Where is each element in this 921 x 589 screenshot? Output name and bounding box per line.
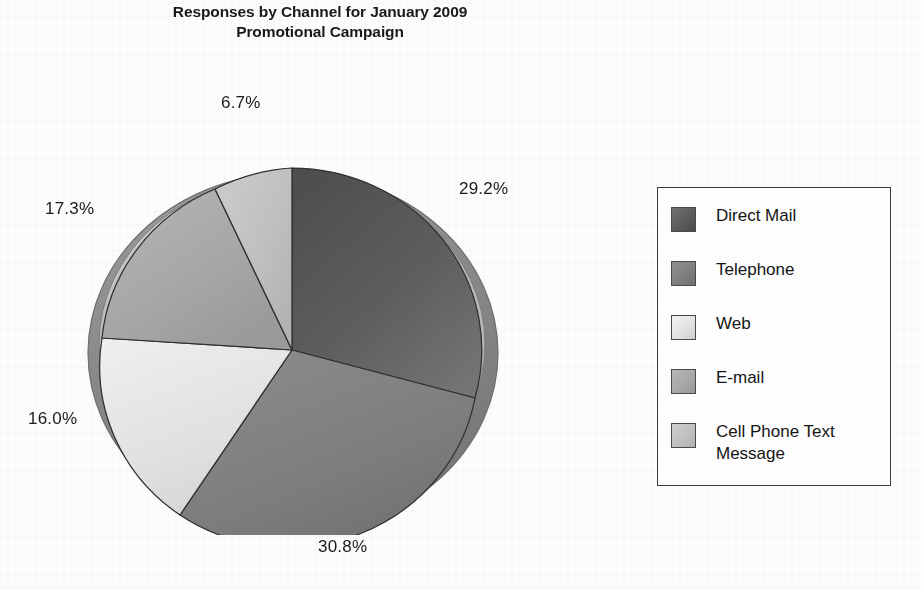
legend-label: Web <box>716 313 751 335</box>
legend-label: E-mail <box>716 367 764 389</box>
legend-item-email[interactable]: E-mail <box>671 367 880 421</box>
legend-item-telephone[interactable]: Telephone <box>671 259 880 313</box>
legend-item-direct-mail[interactable]: Direct Mail <box>671 205 880 259</box>
chart-title-line-1: Responses by Channel for January 2009 <box>173 3 467 20</box>
legend-label: Direct Mail <box>716 205 796 227</box>
legend: Direct Mail Telephone Web E-mail Cell Ph… <box>657 187 891 486</box>
legend-swatch-icon <box>671 423 696 448</box>
legend-swatch-icon <box>671 369 696 394</box>
chart-title-line-2: Promotional Campaign <box>0 22 640 42</box>
data-label-telephone: 30.8% <box>318 537 367 557</box>
legend-swatch-icon <box>671 315 696 340</box>
page-title: Responses by Channel for January 2009 Pr… <box>0 2 640 41</box>
data-label-email: 17.3% <box>45 199 94 219</box>
legend-label: Cell Phone Text Message <box>716 421 866 465</box>
legend-swatch-icon <box>671 207 696 232</box>
pie-chart <box>84 143 504 535</box>
legend-swatch-icon <box>671 261 696 286</box>
data-label-cell-phone: 6.7% <box>221 93 261 113</box>
data-label-web: 16.0% <box>28 409 77 429</box>
legend-label: Telephone <box>716 259 794 281</box>
pie-chart-svg <box>84 143 504 535</box>
legend-item-cell-phone-text-message[interactable]: Cell Phone Text Message <box>671 421 880 465</box>
data-label-direct-mail: 29.2% <box>459 179 508 199</box>
legend-item-web[interactable]: Web <box>671 313 880 367</box>
